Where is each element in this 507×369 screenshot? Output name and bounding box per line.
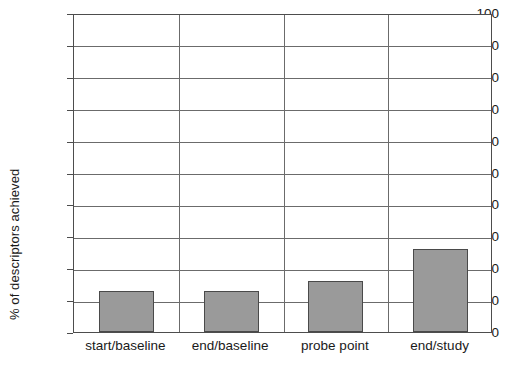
x-tick-label: end/baseline bbox=[178, 338, 283, 354]
plot-area bbox=[73, 14, 492, 333]
gridline bbox=[74, 110, 491, 111]
category-separator bbox=[179, 15, 180, 332]
gridline bbox=[74, 174, 491, 175]
gridline bbox=[74, 78, 491, 79]
category-separator bbox=[388, 15, 389, 332]
x-tick-label: start/baseline bbox=[73, 338, 178, 354]
bar bbox=[99, 291, 154, 332]
gridline bbox=[74, 238, 491, 239]
y-axis-title: % of descriptors achieved bbox=[6, 20, 24, 320]
bar-chart: % of descriptors achieved 01020304050607… bbox=[0, 0, 507, 369]
gridline bbox=[74, 46, 491, 47]
bar bbox=[413, 249, 468, 332]
bar bbox=[204, 291, 259, 332]
category-separator bbox=[284, 15, 285, 332]
y-tick-mark bbox=[67, 333, 73, 334]
gridline bbox=[74, 142, 491, 143]
x-tick-label: probe point bbox=[283, 338, 388, 354]
bar bbox=[308, 281, 363, 332]
x-tick-label: end/study bbox=[387, 338, 492, 354]
gridline bbox=[74, 206, 491, 207]
